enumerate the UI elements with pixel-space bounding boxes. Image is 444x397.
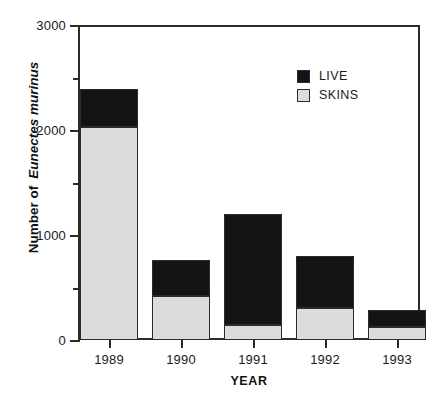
bar-1991-segment-live[interactable]: [224, 214, 282, 325]
y-tick-label-3000: 3000: [6, 19, 66, 32]
live-swatch-icon: [297, 70, 310, 83]
bar-1992[interactable]: [296, 256, 354, 340]
y-tick-500: [73, 288, 80, 290]
bar-1989-segment-skins[interactable]: [80, 127, 138, 340]
bar-1989[interactable]: [80, 89, 138, 340]
bar-1992-segment-skins[interactable]: [296, 308, 354, 340]
bar-1990[interactable]: [152, 260, 210, 340]
bar-1992-segment-live[interactable]: [296, 256, 354, 308]
skins-swatch-icon: [297, 89, 310, 102]
bar-1989-segment-live[interactable]: [80, 89, 138, 127]
bar-1993[interactable]: [368, 310, 426, 340]
chart-legend: LIVE SKINS: [297, 68, 359, 106]
bar-1991-segment-skins[interactable]: [224, 325, 282, 340]
y-tick-1000: [70, 235, 80, 237]
bar-1993-segment-live[interactable]: [368, 310, 426, 327]
bar-1990-segment-live[interactable]: [152, 260, 210, 296]
legend-item-skins[interactable]: SKINS: [297, 87, 359, 104]
x-tick-1991: [253, 340, 255, 348]
legend-label-live: LIVE: [319, 70, 348, 83]
x-axis-title: YEAR: [78, 374, 420, 388]
x-tick-label-1992: 1992: [285, 352, 365, 367]
y-tick-2000: [70, 130, 80, 132]
x-tick-1992: [325, 340, 327, 348]
x-tick-1989: [109, 340, 111, 348]
legend-label-skins: SKINS: [319, 89, 359, 102]
y-tick-2500: [73, 78, 80, 80]
y-tick-label-0: 0: [6, 334, 66, 347]
y-axis-title-prefix: Number of: [26, 186, 41, 254]
stacked-bar-chart: 3000 2000 1000 0 Number ofEunectes murin…: [0, 0, 444, 397]
x-tick-1993: [397, 340, 399, 348]
y-axis-title-species: Eunectes murinus: [26, 62, 41, 186]
y-tick-1500: [73, 183, 80, 185]
y-tick-3000: [70, 25, 80, 27]
y-axis-title: Number ofEunectes murinus: [26, 33, 41, 283]
x-tick-1990: [181, 340, 183, 348]
x-tick-label-1993: 1993: [357, 352, 437, 367]
bar-1993-segment-skins[interactable]: [368, 327, 426, 340]
x-tick-label-1991: 1991: [213, 352, 293, 367]
bar-1990-segment-skins[interactable]: [152, 296, 210, 340]
x-tick-label-1990: 1990: [141, 352, 221, 367]
legend-item-live[interactable]: LIVE: [297, 68, 359, 85]
bar-1991[interactable]: [224, 214, 282, 340]
y-tick-0: [70, 340, 80, 342]
x-tick-label-1989: 1989: [69, 352, 149, 367]
